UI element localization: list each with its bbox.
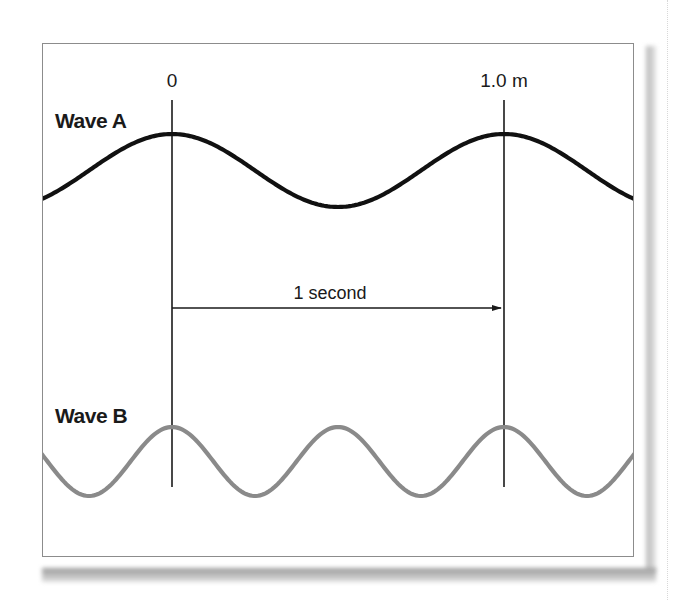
- wave-a-curve: [40, 134, 636, 207]
- wave-a-label: Wave A: [55, 109, 127, 132]
- interval-label: 1 second: [293, 283, 366, 303]
- wave-b-label: Wave B: [55, 404, 127, 427]
- wave-b-curve: [40, 427, 636, 496]
- start-marker-label: 0: [167, 70, 178, 91]
- wave-diagram: 0 1.0 m Wave A Wave B 1 second: [0, 0, 674, 600]
- end-marker-label: 1.0 m: [480, 70, 528, 91]
